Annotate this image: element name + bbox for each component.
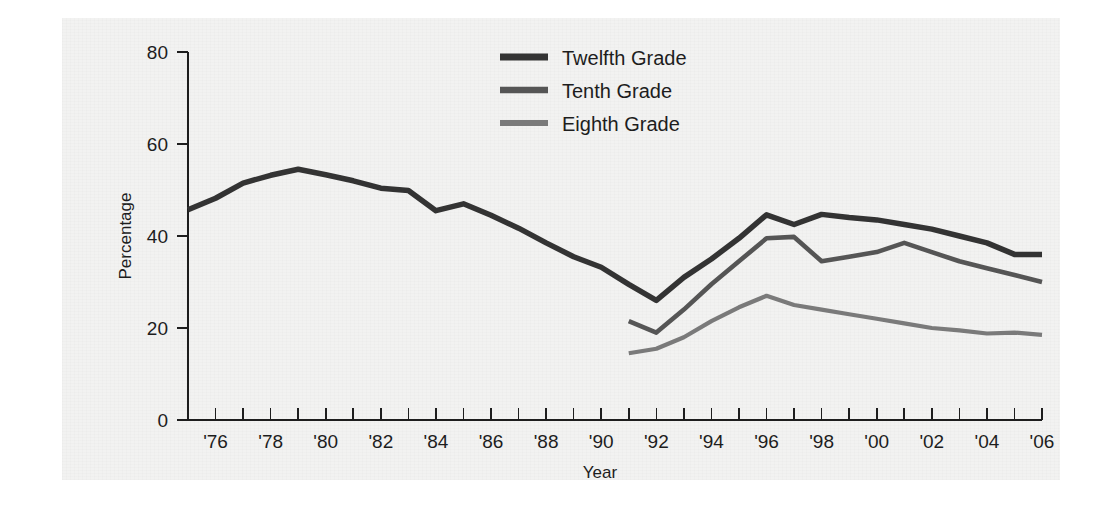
x-tick-label-1992: '92 — [644, 431, 669, 452]
y-axis — [177, 52, 188, 420]
x-tick-label-1982: '82 — [368, 431, 393, 452]
x-tick-label-2004: '04 — [975, 431, 1000, 452]
y-axis-title: Percentage — [116, 193, 135, 280]
x-tick-label-1986: '86 — [479, 431, 504, 452]
legend-label-twelfth-grade: Twelfth Grade — [562, 47, 687, 69]
x-tick-label-1990: '90 — [589, 431, 614, 452]
x-tick-label-2000: '00 — [864, 431, 889, 452]
x-tick-label-1994: '94 — [699, 431, 724, 452]
series-line-twelfth-grade — [188, 169, 1042, 300]
x-tick-label-1996: '96 — [754, 431, 779, 452]
y-tick-labels: 020406080 — [147, 42, 168, 431]
x-axis-title: Year — [583, 463, 618, 482]
x-tick-label-1978: '78 — [258, 431, 283, 452]
x-axis — [188, 408, 1042, 420]
y-tick-label-20: 20 — [147, 318, 168, 339]
x-tick-label-1976: '76 — [203, 431, 228, 452]
x-tick-label-1998: '98 — [809, 431, 834, 452]
x-tick-label-2006: '06 — [1030, 431, 1055, 452]
y-tick-label-80: 80 — [147, 42, 168, 63]
x-tick-labels: '76'78'80'82'84'86'88'90'92'94'96'98'00'… — [203, 431, 1054, 452]
x-tick-label-1988: '88 — [534, 431, 559, 452]
x-tick-label-1984: '84 — [424, 431, 449, 452]
chart-legend: Twelfth GradeTenth GradeEighth Grade — [500, 47, 687, 135]
figure-root: 020406080 '76'78'80'82'84'86'88'90'92'94… — [0, 0, 1100, 508]
legend-label-eighth-grade: Eighth Grade — [562, 113, 680, 135]
legend-label-tenth-grade: Tenth Grade — [562, 80, 672, 102]
line-chart: 020406080 '76'78'80'82'84'86'88'90'92'94… — [0, 0, 1100, 508]
y-tick-label-40: 40 — [147, 226, 168, 247]
x-tick-label-2002: '02 — [919, 431, 944, 452]
data-series-group — [188, 169, 1042, 353]
x-tick-label-1980: '80 — [313, 431, 338, 452]
series-line-tenth-grade — [629, 237, 1042, 333]
y-tick-label-0: 0 — [157, 410, 168, 431]
y-tick-label-60: 60 — [147, 134, 168, 155]
